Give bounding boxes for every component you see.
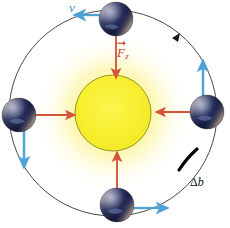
orbit-diagram: v F z Δb [0,0,230,228]
delta-b-label: Δb [190,176,204,188]
force-vector-label: F z [117,46,129,61]
earth-left [2,98,36,132]
orbit-direction-arrow-icon [172,33,180,42]
delta-b-arc [179,149,197,170]
diagram-canvas [0,0,230,228]
earth-right [190,95,224,129]
force-subscript: z [125,51,128,61]
force-symbol: F [117,45,125,60]
velocity-vector-label: v [69,1,75,14]
delta-b-letter: b [198,175,204,189]
earth-top [99,2,133,36]
sun-core [75,75,151,151]
velocity-symbol: v [69,0,75,15]
delta-symbol: Δ [190,175,198,189]
earth-bottom [100,188,134,222]
